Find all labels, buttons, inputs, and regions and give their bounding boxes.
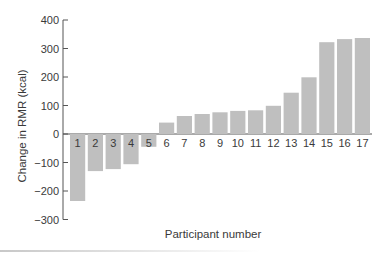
category-label: 4 bbox=[128, 137, 134, 149]
bar-participant-11 bbox=[248, 110, 263, 134]
y-tick-label: 300 bbox=[41, 43, 59, 55]
bar-participant-17 bbox=[355, 38, 370, 134]
y-tick-label: −100 bbox=[34, 157, 59, 169]
bar-participant-13 bbox=[284, 93, 299, 134]
category-label: 7 bbox=[181, 137, 187, 149]
bar-participant-7 bbox=[177, 116, 192, 134]
category-label: 15 bbox=[321, 137, 333, 149]
category-label: 14 bbox=[303, 137, 315, 149]
category-label: 5 bbox=[146, 137, 152, 149]
bar-participant-8 bbox=[195, 114, 210, 134]
bar-participant-10 bbox=[230, 111, 245, 134]
x-axis-title: Participant number bbox=[165, 228, 262, 240]
y-tick-label: 100 bbox=[41, 100, 59, 112]
y-tick-label: 400 bbox=[41, 14, 59, 26]
bar-chart: 4003002001000−100−200−300 12345678910111… bbox=[0, 0, 386, 253]
category-label: 12 bbox=[267, 137, 279, 149]
bar-participant-16 bbox=[337, 39, 352, 134]
category-label: 13 bbox=[285, 137, 297, 149]
category-label: 1 bbox=[75, 137, 81, 149]
category-label: 3 bbox=[110, 137, 116, 149]
y-tick-label: 200 bbox=[41, 71, 59, 83]
category-label: 2 bbox=[92, 137, 98, 149]
bar-participant-15 bbox=[319, 42, 334, 134]
category-label: 8 bbox=[199, 137, 205, 149]
category-label: 17 bbox=[356, 137, 368, 149]
category-label: 10 bbox=[232, 137, 244, 149]
category-label: 16 bbox=[338, 137, 350, 149]
y-tick-label: 0 bbox=[53, 128, 59, 140]
bars bbox=[70, 38, 370, 201]
bar-participant-12 bbox=[266, 106, 281, 134]
bar-participant-14 bbox=[301, 77, 316, 134]
y-axis-title: Change in RMR (kcal) bbox=[16, 69, 28, 182]
y-tick-label: −200 bbox=[34, 185, 59, 197]
bar-participant-6 bbox=[159, 123, 174, 134]
bottom-divider bbox=[0, 250, 260, 252]
category-label: 6 bbox=[164, 137, 170, 149]
bar-participant-9 bbox=[212, 112, 227, 134]
category-label: 11 bbox=[250, 137, 261, 149]
category-label: 9 bbox=[217, 137, 223, 149]
y-tick-label: −300 bbox=[34, 214, 59, 226]
